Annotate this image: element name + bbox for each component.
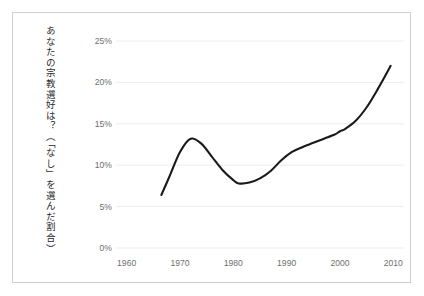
y-tick-label: 25% xyxy=(78,36,112,46)
data-series-line xyxy=(161,66,390,195)
x-tick-label: 1980 xyxy=(210,258,256,268)
y-tick-label: 5% xyxy=(78,202,112,212)
x-tick-label: 1970 xyxy=(157,258,203,268)
x-tick-label: 1960 xyxy=(104,258,150,268)
y-tick-label: 10% xyxy=(78,160,112,170)
x-tick-label: 1990 xyxy=(264,258,310,268)
x-tick-label: 2000 xyxy=(317,258,363,268)
series-path xyxy=(161,66,390,195)
y-tick-label: 15% xyxy=(78,119,112,129)
x-tick-label: 2010 xyxy=(370,258,416,268)
y-axis-tick-labels: 0%5%10%15%20%25% xyxy=(74,0,112,296)
y-tick-label: 20% xyxy=(78,77,112,87)
x-axis-tick-labels: 196019701980199020002010 xyxy=(0,258,424,272)
chart-figure: あなたの宗教選好は？（「なし」を選んだ割合） 0%5%10%15%20%25% … xyxy=(0,0,424,296)
line-chart-plot xyxy=(0,0,424,296)
gridlines xyxy=(116,41,404,248)
y-tick-label: 0% xyxy=(78,243,112,253)
